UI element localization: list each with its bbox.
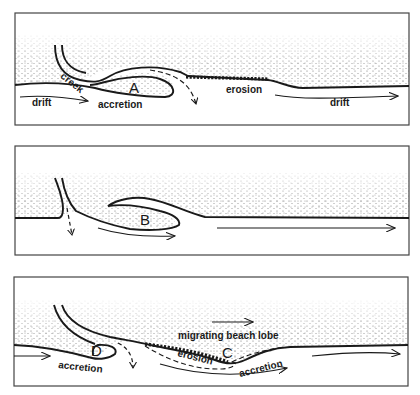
- panel-2-sand-stipple: [15, 165, 409, 229]
- point-c-label: C: [222, 344, 233, 361]
- erosion-hatch: [186, 77, 268, 79]
- drift-right-label: drift: [330, 97, 350, 108]
- drift-arrow-right: [312, 353, 400, 356]
- panel-1: creek A drift accretion erosion drift: [15, 13, 409, 125]
- panel-3: migrating beach lobe D C accretion erosi…: [14, 277, 408, 386]
- creek-outflow-arrow: [118, 343, 133, 368]
- migrating-label: migrating beach lobe: [178, 330, 279, 341]
- erosion-label: erosion: [226, 84, 262, 95]
- drift-left-label: drift: [32, 97, 52, 108]
- accretion-label: accretion: [98, 99, 142, 110]
- point-b-label: B: [140, 211, 150, 228]
- drift-arrow-left: [20, 96, 88, 101]
- beach-lobe-diagram: creek A drift accretion erosion drift B: [0, 0, 420, 395]
- panel-3-sand-stipple: [14, 296, 408, 362]
- point-a-label: A: [129, 79, 139, 96]
- point-d-label: D: [91, 342, 102, 359]
- accretion-left-label: accretion: [58, 359, 103, 375]
- panel-2: B: [15, 146, 409, 255]
